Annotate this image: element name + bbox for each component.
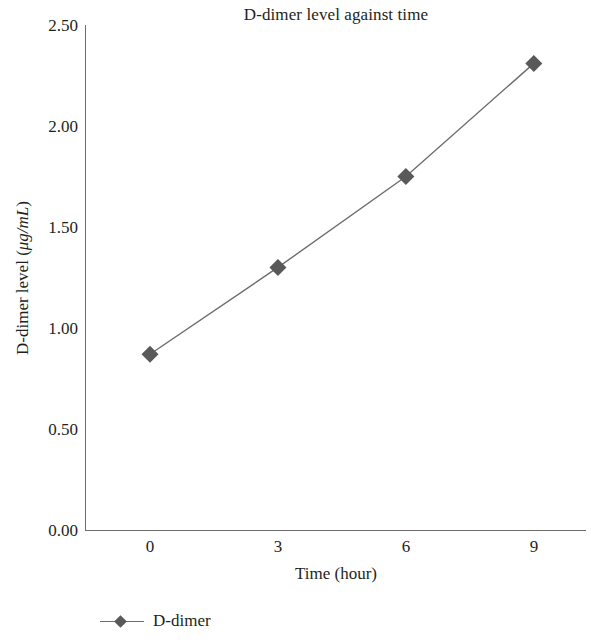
y-axis-title-unit: μg/mL (13, 207, 32, 251)
series-markers-d-dimer (141, 55, 542, 363)
chart-figure: D-dimer level against time 2.50 2.00 1.5… (0, 0, 591, 643)
x-axis-title: Time (hour) (86, 563, 586, 585)
legend-entry-d-dimer: D-dimer (100, 612, 211, 630)
chart-title: D-dimer level against time (86, 4, 586, 26)
y-tick-label-2-00: 2.00 (6, 118, 78, 135)
series-line-d-dimer (150, 63, 534, 354)
legend-diamond-marker-icon (100, 614, 144, 628)
data-point-marker (269, 259, 286, 276)
x-axis-line (85, 530, 586, 531)
y-axis-title: D-dimer level (μg/mL) (13, 138, 33, 418)
x-tick-label-3: 3 (248, 537, 308, 557)
y-axis-tick-labels: 2.50 2.00 1.50 1.00 0.50 0.00 (0, 0, 78, 560)
y-axis-title-suffix: ) (13, 201, 32, 207)
plot-area (86, 25, 585, 530)
series-plot (86, 25, 585, 530)
y-tick-label-0-00: 0.00 (6, 522, 78, 539)
legend-label-d-dimer: D-dimer (153, 612, 211, 630)
y-tick-label-0-50: 0.50 (6, 421, 78, 438)
x-tick-label-6: 6 (376, 537, 436, 557)
x-axis-tick-labels: 0 3 6 9 (86, 537, 586, 561)
y-axis-title-prefix: D-dimer level ( (13, 250, 32, 355)
x-tick-label-0: 0 (120, 537, 180, 557)
chart-legend: D-dimer (100, 612, 211, 630)
x-tick-label-9: 9 (504, 537, 564, 557)
y-tick-label-2-50: 2.50 (6, 17, 78, 34)
data-point-marker (141, 346, 158, 363)
